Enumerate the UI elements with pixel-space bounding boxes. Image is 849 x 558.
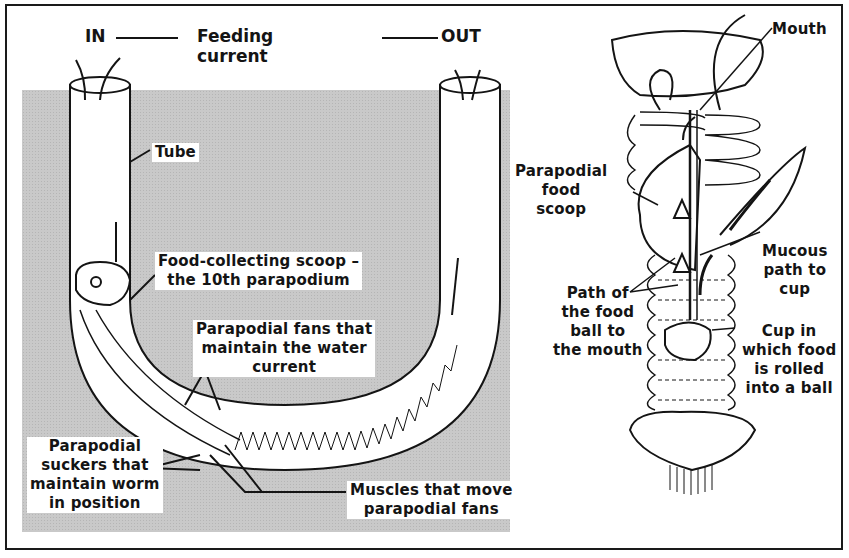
cup-label: Cup in which food is rolled into a ball: [742, 322, 836, 398]
parapodial-suckers-label: Parapodial suckers that maintain worm in…: [27, 437, 163, 513]
path-line1: Path of: [553, 284, 643, 303]
food-scoop-line2: food: [515, 181, 607, 200]
fans-label-line1: Parapodial fans that: [196, 320, 372, 339]
fans-label-line2: maintain the water: [196, 339, 372, 358]
mouth-label: Mouth: [772, 20, 827, 39]
suckers-label-line1: Parapodial: [30, 437, 160, 456]
right-scoop-shape: [720, 148, 805, 245]
mucous-path-label: Mucous path to cup: [762, 242, 828, 299]
food-collecting-scoop-label: Food-collecting scoop – the 10th parapod…: [155, 252, 362, 290]
fans-label-line3: current: [196, 358, 372, 377]
path-line2: the food: [553, 303, 643, 322]
muscles-label: Muscles that move parapodial fans: [347, 481, 516, 519]
tube-label: Tube: [152, 143, 199, 162]
cup-line3: is rolled: [742, 360, 836, 379]
suckers-label-line4: in position: [30, 494, 160, 513]
muscles-label-line1: Muscles that move: [350, 481, 513, 500]
tail-shield: [630, 412, 755, 470]
tube-leader: [130, 150, 150, 162]
cup-line1: Cup in: [742, 322, 836, 341]
scoop-label-line2: the 10th parapodium: [158, 271, 359, 290]
tube-opening-in: [70, 77, 130, 93]
mucous-arrow-down: [700, 255, 712, 295]
muscles-label-line2: parapodial fans: [350, 500, 513, 519]
mucous-line2: path to: [762, 261, 828, 280]
mucous-line3: cup: [762, 280, 828, 299]
parapodial-food-scoop-label: Parapodial food scoop: [515, 162, 607, 219]
food-scoop-line1: Parapodial: [515, 162, 607, 181]
cup-leader: [712, 328, 735, 330]
suckers-label-line3: maintain worm: [30, 475, 160, 494]
parapodial-fans-label: Parapodial fans that maintain the water …: [193, 320, 375, 377]
cup-line2: which food: [742, 341, 836, 360]
scoop-leader: [130, 275, 155, 300]
head-segments-right: [705, 115, 760, 185]
food-scoop-line3: scoop: [515, 200, 607, 219]
mucous-line1: Mucous: [762, 242, 828, 261]
food-cup: [665, 323, 711, 361]
worm-head: [76, 262, 130, 305]
scoop-label-line1: Food-collecting scoop –: [158, 252, 359, 271]
cup-line4: into a ball: [742, 379, 836, 398]
tube-opening-out: [440, 77, 500, 93]
path-line4: the mouth: [553, 341, 643, 360]
path-of-food-ball-label: Path of the food ball to the mouth: [553, 284, 643, 360]
suckers-label-line2: suckers that: [30, 456, 160, 475]
path-line3: ball to: [553, 322, 643, 341]
